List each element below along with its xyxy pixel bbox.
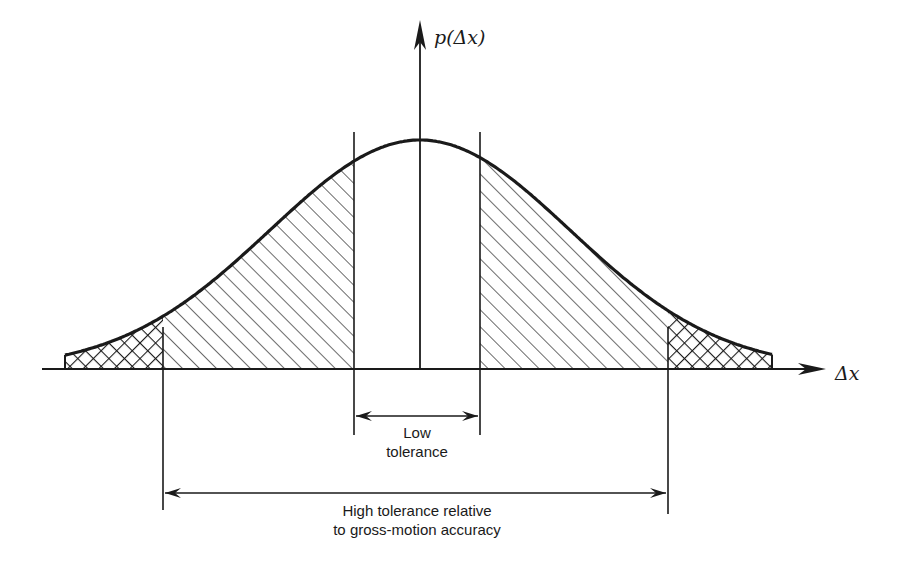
high-tolerance-label-line1: High tolerance relative	[342, 502, 491, 519]
left-shoulder-hatched-region	[163, 161, 354, 369]
high-tolerance-label-line2: to gross-motion accuracy	[333, 521, 501, 538]
y-axis-label: p(Δx)	[434, 26, 485, 48]
x-axis-label: Δx	[834, 362, 860, 384]
low-tolerance-label-line2: tolerance	[386, 443, 448, 460]
right-shoulder-hatched-region	[480, 158, 668, 369]
tolerance-distribution-diagram: Δx p(Δx) Low tolerance High tolerance re…	[0, 0, 897, 564]
low-tolerance-label-line1: Low	[403, 424, 431, 441]
